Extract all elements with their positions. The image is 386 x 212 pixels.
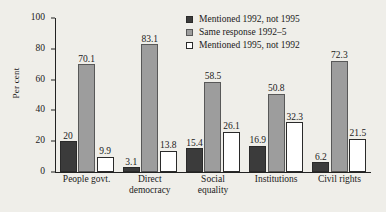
x-axis-category-label: Social equality: [181, 174, 244, 195]
bar-value-label: 20: [63, 132, 73, 142]
bar-value-label: 16.9: [249, 136, 266, 146]
legend-label: Mentioned 1992, not 1995: [199, 15, 300, 25]
bar[interactable]: 13.8: [160, 151, 177, 172]
bar[interactable]: 21.5: [349, 139, 366, 172]
bar[interactable]: 72.3: [331, 61, 348, 172]
bar-value-label: 50.8: [268, 84, 285, 94]
legend-swatch-icon: [186, 29, 193, 36]
legend-swatch-icon: [186, 16, 193, 23]
bar[interactable]: 70.1: [78, 64, 95, 172]
y-tick-label: 20: [5, 136, 51, 146]
bar[interactable]: 83.1: [141, 44, 158, 172]
bar-value-label: 21.5: [350, 129, 367, 139]
x-axis-category-label: People govt.: [55, 174, 118, 185]
x-axis-category-label: Direct democracy: [118, 174, 181, 195]
y-tick-label: 60: [5, 75, 51, 85]
bar-value-label: 3.1: [125, 158, 137, 168]
legend-item[interactable]: Mentioned 1995, not 1992: [186, 40, 300, 52]
bar[interactable]: 20: [60, 141, 77, 172]
bar-value-label: 26.1: [223, 122, 240, 132]
bar-value-label: 70.1: [78, 55, 95, 65]
bar[interactable]: 58.5: [204, 82, 221, 172]
bar[interactable]: 15.4: [186, 148, 203, 172]
y-tick-label: 80: [5, 44, 51, 54]
bar[interactable]: 50.8: [268, 94, 285, 172]
y-tick-label: 40: [5, 106, 51, 116]
y-tick-label: 0: [5, 167, 51, 177]
bar-value-label: 15.4: [186, 139, 203, 149]
bar-chart: Per cent 020406080100 2070.19.9People go…: [0, 0, 386, 212]
bar[interactable]: 6.2: [312, 162, 329, 172]
bar-group: 2070.19.9: [55, 18, 118, 172]
legend-item[interactable]: Mentioned 1992, not 1995: [186, 14, 300, 26]
chart-legend: Mentioned 1992, not 1995Same response 19…: [186, 14, 300, 53]
bar-value-label: 9.9: [99, 147, 111, 157]
bar-value-label: 13.8: [160, 141, 177, 151]
y-tick-label: 100: [5, 13, 51, 23]
bar-group: 3.183.113.8: [118, 18, 181, 172]
bar[interactable]: 32.3: [286, 122, 303, 172]
bar-value-label: 83.1: [141, 35, 158, 45]
bar-group: 6.272.321.5: [308, 18, 371, 172]
bar-value-label: 32.3: [286, 113, 303, 123]
x-axis-category-label: Institutions: [245, 174, 308, 185]
bar-value-label: 58.5: [205, 72, 222, 82]
bar[interactable]: 16.9: [249, 146, 266, 172]
bar[interactable]: 26.1: [223, 132, 240, 172]
bar-value-label: 6.2: [315, 153, 327, 163]
legend-label: Same response 1992–5: [199, 28, 287, 38]
x-axis-category-label: Civil rights: [308, 174, 371, 185]
legend-label: Mentioned 1995, not 1992: [199, 41, 300, 51]
bar[interactable]: 9.9: [97, 157, 114, 172]
bar[interactable]: 3.1: [123, 167, 140, 172]
bar-value-label: 72.3: [331, 51, 348, 61]
legend-swatch-icon: [186, 42, 193, 49]
legend-item[interactable]: Same response 1992–5: [186, 27, 300, 39]
